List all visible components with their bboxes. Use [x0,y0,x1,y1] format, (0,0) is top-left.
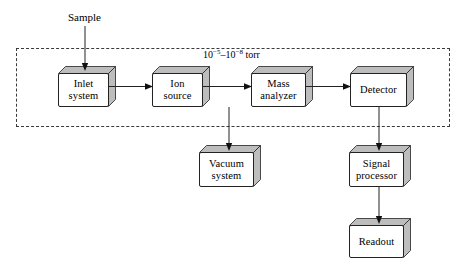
pressure-unit: torr [243,49,260,60]
connector-inlet-to-ion-source [109,81,154,92]
diagram-canvas: Sample 10−5–10−8 torr [0,0,466,270]
block-side-face [253,145,261,187]
block-label-vacuum-system: Vacuum system [209,158,244,182]
block-side-face [403,145,411,187]
connector-detector-to-signal-processor [374,106,384,153]
block-label-ion-source: Ion source [163,78,191,102]
connector-ion-source-to-mass-analyzer [203,81,253,92]
block-inlet-system[interactable]: Inlet system [58,66,116,107]
pressure-exponent-low: −8 [235,48,242,56]
block-front-face: Inlet system [58,73,109,107]
block-front-face: Vacuum system [199,152,254,187]
pressure-label: 10−5–10−8 torr [203,49,260,60]
connector-mass-analyzer-to-detector [306,81,352,92]
block-label-readout: Readout [359,236,395,248]
block-front-face: Ion source [152,73,203,107]
block-mass-analyzer[interactable]: Mass analyzer [251,66,313,107]
connector-sample-to-inlet [80,26,90,72]
block-label-detector: Detector [360,84,397,96]
block-label-mass-analyzer: Mass analyzer [260,78,296,102]
block-front-face: Mass analyzer [251,73,306,107]
block-front-face: Readout [349,225,404,258]
connector-signal-processor-to-readout [374,186,384,226]
block-side-face [406,66,414,107]
pressure-mid: –10 [220,49,235,60]
block-detector[interactable]: Detector [350,66,414,107]
block-front-face: Signal processor [349,152,404,187]
block-label-signal-processor: Signal processor [356,158,397,182]
block-front-face: Detector [350,73,407,107]
block-side-face [403,218,411,258]
sample-label: Sample [68,11,101,23]
pressure-prefix: 10 [203,49,213,60]
block-ion-source[interactable]: Ion source [152,66,210,107]
connector-envelope-to-vacuum-system [224,107,234,153]
block-label-inlet-system: Inlet system [69,78,99,102]
